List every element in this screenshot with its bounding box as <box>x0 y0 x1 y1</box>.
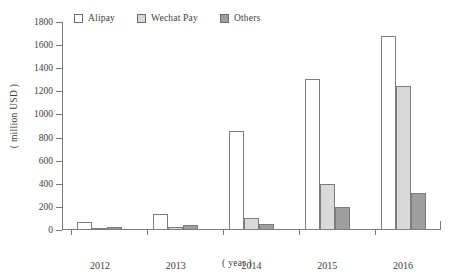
y-axis-tick-label: 1600 <box>34 40 53 50</box>
bar-alipay-2014[interactable] <box>229 131 244 230</box>
bar-others-2016[interactable] <box>411 193 426 230</box>
x-axis-tick <box>71 230 72 235</box>
y-axis-tick-label: 400 <box>39 179 53 189</box>
x-axis-tick <box>299 230 300 235</box>
y-axis-tick <box>56 230 62 231</box>
y-axis-tick <box>56 68 62 69</box>
plot-area: 0200400600800100012001400160018002012201… <box>62 22 441 230</box>
y-axis-tick <box>56 22 62 23</box>
x-axis-tick <box>375 230 376 235</box>
bar-wechat-pay-2013[interactable] <box>168 227 183 230</box>
bar-wechat-pay-2015[interactable] <box>320 184 335 230</box>
x-axis-tick <box>223 230 224 235</box>
y-axis-tick <box>56 138 62 139</box>
y-axis-tick-label: 600 <box>39 156 53 166</box>
y-axis-tick-label: 0 <box>48 225 53 235</box>
bar-alipay-2012[interactable] <box>77 222 92 230</box>
bar-alipay-2013[interactable] <box>153 214 168 230</box>
bar-wechat-pay-2012[interactable] <box>92 228 107 230</box>
bar-alipay-2016[interactable] <box>381 36 396 230</box>
bar-others-2013[interactable] <box>183 225 198 230</box>
x-axis-tick <box>147 230 148 235</box>
y-axis-tick <box>56 91 62 92</box>
y-axis-tick <box>56 161 62 162</box>
y-axis-tick-label: 800 <box>39 133 53 143</box>
bar-others-2015[interactable] <box>335 207 350 230</box>
y-axis-tick-label: 1200 <box>34 86 53 96</box>
y-axis-tick <box>56 45 62 46</box>
y-axis-tick-label: 1800 <box>34 17 53 27</box>
y-axis-line <box>62 22 63 230</box>
y-axis-title-text: ( million USD ) <box>9 84 19 148</box>
plot-right-edge <box>440 221 441 230</box>
y-axis-title: ( million USD ) <box>3 0 25 232</box>
bar-chart: Alipay Wechat Pay Others ( million USD )… <box>0 0 452 280</box>
y-axis-tick <box>56 114 62 115</box>
bar-wechat-pay-2014[interactable] <box>244 218 259 230</box>
bar-wechat-pay-2016[interactable] <box>396 86 411 230</box>
bar-alipay-2015[interactable] <box>305 79 320 230</box>
bar-others-2012[interactable] <box>107 227 122 230</box>
bar-others-2014[interactable] <box>259 224 274 230</box>
x-axis-title: ( year ) <box>0 258 452 268</box>
y-axis-tick-label: 1400 <box>34 63 53 73</box>
x-axis-title-text: ( year ) <box>222 258 252 268</box>
y-axis-tick <box>56 184 62 185</box>
y-axis-tick <box>56 207 62 208</box>
y-axis-tick-label: 200 <box>39 202 53 212</box>
y-axis-tick-label: 1000 <box>34 109 53 119</box>
